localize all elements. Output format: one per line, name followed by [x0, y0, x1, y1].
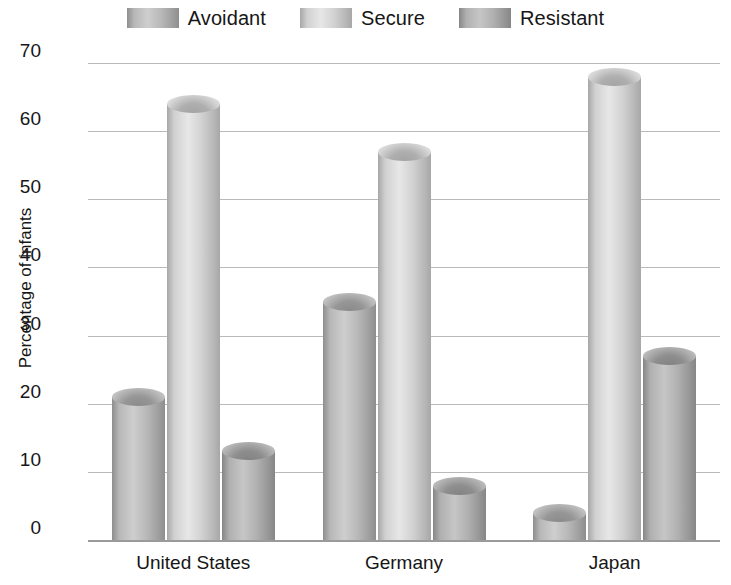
legend-item-avoidant: Avoidant [127, 8, 266, 28]
bar-united-states-resistant [222, 442, 275, 540]
legend-swatch-avoidant [127, 8, 179, 28]
bar-cap [112, 388, 165, 406]
legend-label-resistant: Resistant [520, 8, 604, 28]
bar-japan-avoidant [533, 504, 586, 540]
bar-body [323, 302, 376, 541]
y-tick-value: 30 [0, 313, 41, 335]
bar-united-states-avoidant [112, 388, 165, 540]
y-tick-value: 50 [0, 176, 41, 198]
bar-united-states-secure [167, 95, 220, 540]
plot-area: 706050403020100 [88, 63, 720, 540]
x-axis-label-united-states: United States [88, 552, 299, 574]
bar-cap [323, 293, 376, 311]
y-tick-value: 0 [0, 517, 41, 539]
bar-cap [533, 504, 586, 522]
bar-body [643, 356, 696, 540]
bar-body [588, 77, 641, 540]
x-axis-label-germany: Germany [299, 552, 510, 574]
bar-body [112, 397, 165, 540]
legend-label-secure: Secure [361, 8, 425, 28]
bar-japan-resistant [643, 347, 696, 540]
bar-cap [167, 95, 220, 113]
legend-swatch-resistant [459, 8, 511, 28]
y-tick-value: 20 [0, 381, 41, 403]
gridline-0 [88, 540, 720, 542]
bar-cap [433, 477, 486, 495]
bar-body [167, 104, 220, 540]
legend-swatch-secure [300, 8, 352, 28]
legend-label-avoidant: Avoidant [188, 8, 266, 28]
y-tick-value: 10 [0, 449, 41, 471]
y-tick-value: 70 [0, 40, 41, 62]
bar-body [222, 451, 275, 540]
y-axis-title: Percentage of infants [16, 168, 36, 408]
bar-body [378, 152, 431, 540]
legend-item-secure: Secure [300, 8, 425, 28]
gridline-70 [88, 63, 720, 64]
y-tick-value: 40 [0, 244, 41, 266]
bar-cap [378, 143, 431, 161]
bar-germany-secure [378, 143, 431, 540]
legend-item-resistant: Resistant [459, 8, 604, 28]
chart-legend: Avoidant Secure Resistant [0, 0, 731, 36]
bar-japan-secure [588, 68, 641, 540]
bar-chart: Avoidant Secure Resistant Percentage of … [0, 0, 731, 585]
bar-cap [643, 347, 696, 365]
bar-cap [588, 68, 641, 86]
y-tick-value: 60 [0, 108, 41, 130]
bar-germany-resistant [433, 477, 486, 541]
bar-germany-avoidant [323, 293, 376, 541]
x-axis-label-japan: Japan [509, 552, 720, 574]
